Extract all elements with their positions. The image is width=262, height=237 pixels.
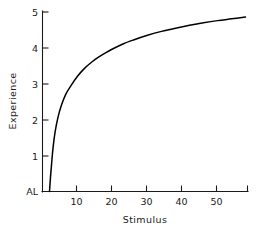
x-axis-ticks <box>77 186 248 192</box>
x-tick-label-30: 30 <box>140 196 152 207</box>
y-tick-label-2: 2 <box>32 115 38 126</box>
y-tick-label-4: 4 <box>32 43 38 54</box>
y-tick-label-5: 5 <box>32 7 38 18</box>
y-axis-ticks <box>43 12 49 156</box>
figure-container: 5 4 3 2 1 AL 10 20 30 40 50 Experience S… <box>0 0 262 237</box>
y-tick-label-3: 3 <box>32 79 38 90</box>
x-axis-title: Stimulus <box>123 214 167 225</box>
x-tick-label-40: 40 <box>175 196 187 207</box>
x-tick-label-20: 20 <box>105 196 117 207</box>
x-tick-label-50: 50 <box>210 196 222 207</box>
experience-stimulus-curve <box>50 17 246 191</box>
y-tick-label-al: AL <box>26 186 38 197</box>
y-axis-title: Experience <box>7 73 18 130</box>
y-tick-label-1: 1 <box>32 151 38 162</box>
x-tick-label-10: 10 <box>70 196 82 207</box>
chart-plot: 5 4 3 2 1 AL 10 20 30 40 50 Experience S… <box>0 0 262 237</box>
